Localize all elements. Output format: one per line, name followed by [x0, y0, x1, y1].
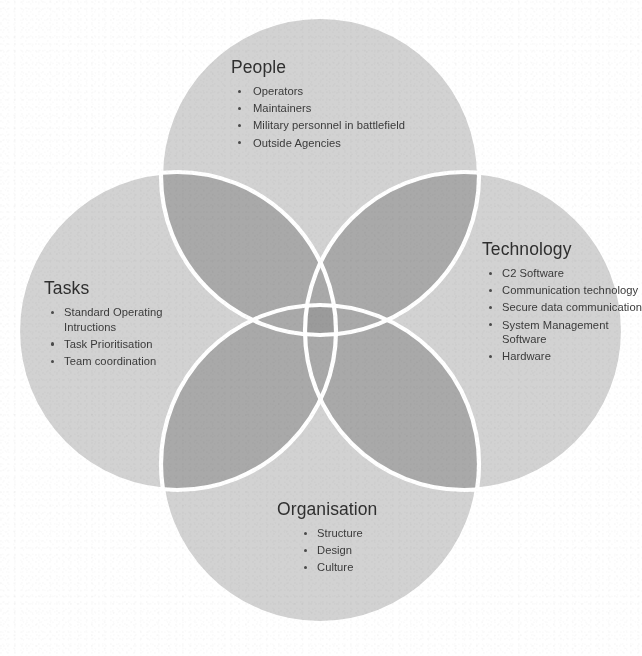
bullet-icon [489, 289, 492, 292]
list-item: Team coordination [50, 354, 214, 369]
lobe-organisation: Organisation Structure Design Culture [277, 500, 467, 578]
list-item-label: Maintainers [253, 102, 311, 114]
list-item: Operators [237, 84, 471, 99]
bullet-icon [238, 124, 241, 127]
list-item-label: System Management Software [502, 319, 609, 346]
list-item-label: Hardware [502, 350, 551, 362]
bullet-icon [489, 272, 492, 275]
bullet-icon [238, 107, 241, 110]
list-item-label: Standard Operating Intructions [64, 306, 163, 333]
lobe-heading-technology: Technology [482, 240, 642, 259]
bullet-icon [489, 355, 492, 358]
list-item: Outside Agencies [237, 136, 471, 151]
list-item: Maintainers [237, 101, 471, 116]
lobe-list-technology: C2 Software Communication technology Sec… [488, 266, 642, 364]
lobe-list-organisation: Structure Design Culture [303, 526, 467, 575]
venn-diagram: People Operators Maintainers Military pe… [0, 0, 642, 656]
bullet-icon [304, 549, 307, 552]
caption [0, 642, 642, 656]
list-item-label: Design [317, 544, 352, 556]
list-item: Secure data communication [488, 300, 642, 315]
list-item-label: Communication technology [502, 284, 638, 296]
list-item-label: C2 Software [502, 267, 564, 279]
list-item: C2 Software [488, 266, 642, 281]
bullet-icon [238, 90, 241, 93]
list-item: Design [303, 543, 467, 558]
list-item-label: Operators [253, 85, 303, 97]
bullet-icon [51, 342, 54, 345]
bullet-icon [51, 360, 54, 363]
list-item: Culture [303, 560, 467, 575]
bullet-icon [51, 311, 54, 314]
bullet-icon [304, 532, 307, 535]
bullet-icon [489, 323, 492, 326]
list-item: Military personnel in battlefield [237, 118, 471, 133]
list-item: Task Prioritisation [50, 337, 214, 352]
lobe-heading-organisation: Organisation [277, 500, 467, 519]
list-item-label: Team coordination [64, 355, 156, 367]
list-item-label: Military personnel in battlefield [253, 119, 405, 131]
lobe-list-tasks: Standard Operating Intructions Task Prio… [50, 305, 214, 368]
list-item: Hardware [488, 349, 642, 364]
bullet-icon [489, 306, 492, 309]
list-item: Structure [303, 526, 467, 541]
list-item-label: Secure data communication [502, 301, 642, 313]
list-item-label: Culture [317, 561, 353, 573]
lobe-tasks: Tasks Standard Operating Intructions Tas… [44, 279, 214, 371]
list-item-label: Structure [317, 527, 363, 539]
lobe-heading-tasks: Tasks [44, 279, 214, 298]
list-item: Standard Operating Intructions [50, 305, 214, 334]
list-item-label: Outside Agencies [253, 137, 341, 149]
bullet-icon [304, 566, 307, 569]
lobe-technology: Technology C2 Software Communication tec… [482, 240, 642, 366]
lobe-list-people: Operators Maintainers Military personnel… [237, 84, 471, 150]
list-item-label: Task Prioritisation [64, 338, 153, 350]
bullet-icon [238, 141, 241, 144]
lobe-people: People Operators Maintainers Military pe… [231, 58, 471, 153]
list-item: System Management Software [488, 318, 642, 347]
list-item: Communication technology [488, 283, 642, 298]
lobe-heading-people: People [231, 58, 471, 77]
